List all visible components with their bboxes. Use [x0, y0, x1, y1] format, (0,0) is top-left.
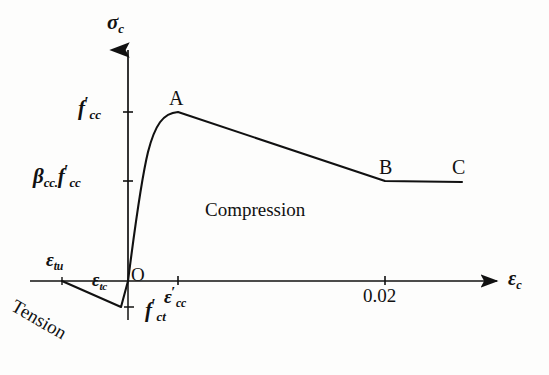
y-tick-label-beta-f-cc-prime: βcc.f′cc — [33, 166, 80, 187]
y-tick-label-f-cc-prime: f′cc — [78, 98, 101, 119]
curve-point-label-a: A — [169, 88, 183, 108]
x-axis-label: εc — [508, 268, 521, 288]
compression-curve — [128, 112, 462, 281]
label-eps-tc: εtc — [92, 271, 107, 289]
label-eps-tu: εtu — [46, 250, 63, 269]
x-tick-label-0-02: 0.02 — [363, 286, 396, 305]
region-label-compression: Compression — [205, 200, 305, 219]
plot-canvas — [0, 0, 549, 375]
curve-point-label-b: B — [379, 157, 392, 177]
y-axis-label: σc — [107, 12, 124, 33]
origin-label: O — [131, 265, 145, 284]
x-tick-label-eps-cc-prime: ε′cc — [164, 287, 186, 306]
curve-point-label-c: C — [452, 157, 465, 177]
stress-strain-diagram: σc εc f′cc βcc.f′cc ε′cc 0.02 O εtu εtc … — [0, 0, 549, 375]
label-f-ct-prime: f′ct — [145, 300, 165, 321]
